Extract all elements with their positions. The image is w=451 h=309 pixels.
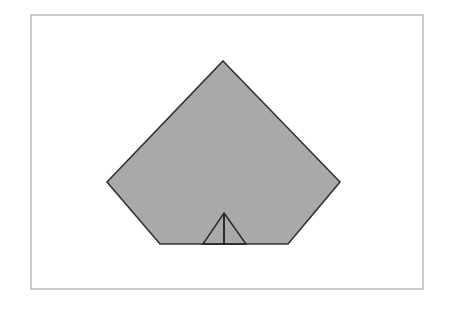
origami-figure-svg (0, 0, 451, 309)
figure-canvas (0, 0, 451, 309)
